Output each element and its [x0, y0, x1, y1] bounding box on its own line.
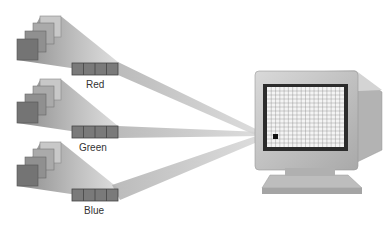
red-register — [72, 63, 118, 75]
crt-monitor — [255, 70, 382, 194]
red-output-beam — [118, 62, 262, 138]
blue-channel — [17, 134, 262, 201]
green-bitplane-stack — [17, 102, 38, 123]
red-label: Red — [86, 79, 104, 90]
green-label: Green — [79, 142, 107, 153]
highlighted-pixel — [273, 134, 278, 139]
green-register — [72, 126, 118, 138]
blue-output-beam — [112, 134, 262, 200]
red-bitplane-stack — [17, 39, 38, 60]
blue-register — [72, 189, 118, 201]
green-channel — [17, 79, 262, 138]
blue-label: Blue — [84, 205, 104, 216]
blue-bitplane-stack — [17, 165, 38, 186]
frame-buffer-diagram — [0, 0, 390, 227]
monitor-stand — [262, 175, 362, 188]
